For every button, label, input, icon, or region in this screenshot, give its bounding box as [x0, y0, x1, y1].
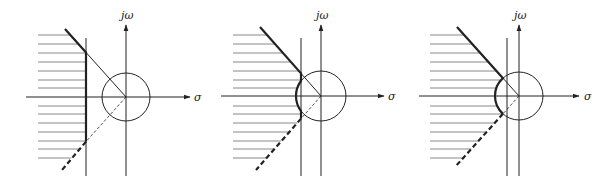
damping-ray-upper — [301, 73, 321, 96]
panel-2: σjω — [221, 9, 396, 176]
region-boundary — [457, 27, 503, 114]
jomega-label: jω — [118, 9, 133, 22]
region-boundary — [260, 27, 301, 119]
jomega-label: jω — [313, 9, 328, 22]
sigma-label: σ — [388, 90, 396, 103]
jomega-label: jω — [511, 9, 526, 22]
region-boundary-dashed — [62, 142, 86, 170]
damping-ray-lower — [86, 97, 126, 142]
region-boundary-dashed — [256, 119, 301, 170]
damping-ray-upper — [86, 52, 126, 97]
region-boundary — [65, 29, 86, 142]
s-plane-figure: σjωσjωσjω — [0, 0, 613, 189]
damping-ray-lower — [301, 96, 321, 119]
panels-group: σjωσjωσjω — [26, 9, 592, 176]
s-plane-diagrams: σjωσjωσjω — [0, 0, 613, 189]
panel-1: σjω — [26, 9, 202, 176]
sigma-label: σ — [584, 90, 592, 103]
damping-ray-upper — [503, 78, 519, 96]
damping-ray-lower — [503, 96, 519, 114]
region-boundary-dashed — [455, 114, 503, 167]
sigma-label: σ — [194, 91, 202, 104]
panel-3: σjω — [419, 9, 592, 176]
